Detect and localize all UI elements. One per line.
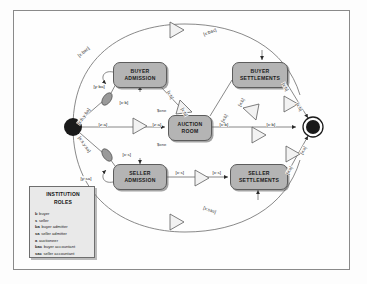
legend-role-abbr: b [35, 211, 38, 216]
transition-init-auction [133, 118, 147, 134]
annotation-auction-room-top: $one [157, 108, 166, 113]
legend-role-item: sseller [35, 218, 91, 225]
transition-sellersettle-final [286, 146, 300, 162]
edge-buyer-loop [103, 72, 113, 84]
legend-role-abbr: sac [35, 251, 42, 256]
label-init-auction: [z:a] [98, 122, 108, 127]
transition-sac-bottom [170, 214, 184, 230]
label-seller-loop: [y:sa] [80, 176, 92, 181]
scene-seller-admission-line2: ADMISSION [124, 177, 155, 184]
scene-seller-admission[interactable]: SELLER ADMISSION [113, 164, 167, 190]
final-node-core [306, 120, 320, 134]
scene-seller-settlements-line1: SELLER [248, 170, 270, 177]
scene-buyer-settlements-line1: BUYER [250, 68, 269, 75]
edge-auction-buyersettle [210, 80, 232, 116]
label-seller-out: [x:s] [122, 152, 132, 157]
legend-role-name: auctioneer [39, 238, 58, 243]
diagram-page: BUYER ADMISSION AUCTION ROOM BUYER SETTL… [0, 0, 367, 284]
annotation-auction-room-bottom: $one [157, 142, 166, 147]
legend-role-item: babuyer admitter [35, 224, 91, 231]
label-seller-mid: [x:s] [175, 170, 185, 175]
legend-title: INSTITUTION ROLES [35, 191, 91, 206]
legend-role-item: bbuyer [35, 211, 91, 218]
legend-institution-roles: INSTITUTION ROLES bbuyer sseller babuyer… [29, 186, 95, 258]
legend-role-abbr: s [35, 218, 37, 223]
legend-title-line2: ROLES [35, 199, 91, 207]
scene-auction-room-line2: ROOM [182, 128, 199, 135]
transition-auction-buyersettle [243, 104, 259, 120]
scene-buyer-settlements-line2: SETTLEMENTS [240, 75, 280, 82]
label-auction-in: [z:a] [152, 122, 162, 127]
label-buyer-settle-in: [x:b] [266, 122, 276, 127]
scene-buyer-settlements[interactable]: BUYER SETTLEMENTS [232, 62, 288, 88]
legend-role-item: sacseller accountant [35, 251, 91, 258]
scene-auction-room-line1: AUCTION [178, 121, 203, 128]
legend-title-line1: INSTITUTION [35, 191, 91, 199]
label-buyer-loop: [y:ba] [93, 84, 105, 89]
legend-role-item: bacbuyer accountant [35, 244, 91, 251]
scene-auction-room[interactable]: AUCTION ROOM [168, 115, 212, 141]
legend-role-item: aauctioneer [35, 238, 91, 245]
legend-role-name: seller [39, 218, 49, 223]
legend-role-name: buyer [39, 211, 49, 216]
legend-role-name: seller admitter [41, 231, 67, 236]
scene-seller-admission-line1: SELLER [129, 170, 151, 177]
legend-role-name: seller accountant [43, 251, 74, 256]
transition-seller-mid [195, 170, 209, 186]
legend-role-abbr: ba [35, 224, 40, 229]
legend-role-item: saseller admitter [35, 231, 91, 238]
label-buyer-out: [x:b] [119, 100, 129, 105]
legend-role-abbr: sa [35, 231, 40, 236]
transition-auction-final [252, 127, 266, 143]
scene-buyer-admission-line2: ADMISSION [124, 75, 155, 82]
legend-role-name: buyer admitter [41, 224, 67, 229]
scene-buyer-admission[interactable]: BUYER ADMISSION [113, 62, 167, 88]
fork-bar-seller [100, 147, 115, 163]
legend-role-list: bbuyer sseller babuyer admitter saseller… [35, 211, 91, 257]
fork-bar-buyer [100, 91, 115, 107]
scene-buyer-admission-line1: BUYER [130, 68, 149, 75]
scene-seller-settlements[interactable]: SELLER SETTLEMENTS [230, 164, 288, 190]
label-seller-mid-2: [x:s] [212, 170, 222, 175]
scene-seller-settlements-line2: SETTLEMENTS [239, 177, 279, 184]
legend-role-abbr: a [35, 238, 37, 243]
edge-seller-loop [103, 170, 113, 182]
legend-role-name: buyer accountant [44, 244, 75, 249]
legend-role-abbr: bac [35, 244, 42, 249]
